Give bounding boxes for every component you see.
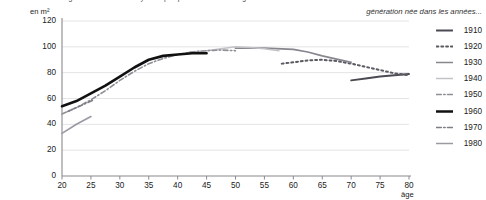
- legend-swatch-1920-icon: [436, 42, 453, 51]
- legend-label-1910: 1910: [459, 26, 482, 35]
- x-tick-label-35: 35: [138, 181, 160, 190]
- legend-item-1910[interactable]: 1910: [436, 25, 482, 35]
- legend-swatch-1940-icon: [436, 74, 453, 83]
- legend-label-1940: 1940: [459, 74, 482, 83]
- x-tick-label-55: 55: [253, 181, 275, 190]
- legend-item-1970[interactable]: 1970: [436, 122, 482, 132]
- x-tick-label-25: 25: [80, 181, 102, 190]
- legend-item-1960[interactable]: 1960: [436, 106, 482, 116]
- chart-root: logement : surface moyenne par personne …: [0, 0, 486, 200]
- legend-swatch-1910-icon: [436, 26, 453, 35]
- legend-item-1950[interactable]: 1950: [436, 90, 482, 100]
- gridlines: [62, 21, 409, 150]
- x-tick-label-65: 65: [311, 181, 333, 190]
- x-tick-label-70: 70: [340, 181, 362, 190]
- axis-spines: [62, 18, 411, 176]
- data-series-group: [62, 47, 409, 134]
- y-tick-label-20: 20: [34, 145, 56, 154]
- x-tick-label-60: 60: [282, 181, 304, 190]
- legend-label-1930: 1930: [459, 58, 482, 67]
- x-tick-label-75: 75: [369, 181, 391, 190]
- y-tick-label-80: 80: [34, 68, 56, 77]
- x-tick-label-45: 45: [196, 181, 218, 190]
- legend-label-1960: 1960: [459, 107, 482, 116]
- legend-item-1940[interactable]: 1940: [436, 74, 482, 84]
- y-tick-label-100: 100: [34, 42, 56, 51]
- legend-label-1970: 1970: [459, 123, 482, 132]
- legend-label-1950: 1950: [459, 90, 482, 99]
- legend-item-1930[interactable]: 1930: [436, 57, 482, 67]
- legend-label-1920: 1920: [459, 42, 482, 51]
- legend-label-1980: 1980: [459, 139, 482, 148]
- plot-area: [0, 0, 486, 200]
- y-tick-label-120: 120: [34, 16, 56, 25]
- x-tick-label-30: 30: [109, 181, 131, 190]
- series-line-1980: [62, 117, 91, 134]
- legend-swatch-1950-icon: [436, 90, 453, 99]
- y-tick-label-0: 0: [34, 171, 56, 180]
- legend-item-1920[interactable]: 1920: [436, 41, 482, 51]
- legend-swatch-1960-icon: [436, 107, 453, 116]
- legend-swatch-1970-icon: [436, 123, 453, 132]
- y-tick-label-40: 40: [34, 119, 56, 128]
- legend-item-1980[interactable]: 1980: [436, 138, 482, 148]
- x-tick-label-80: 80: [398, 181, 420, 190]
- y-tick-label-60: 60: [34, 94, 56, 103]
- legend-title: génération née dans les années...: [366, 7, 482, 16]
- x-tick-label-40: 40: [167, 181, 189, 190]
- x-axis-label: âge: [401, 190, 414, 199]
- x-tick-label-20: 20: [51, 181, 73, 190]
- x-tick-label-50: 50: [225, 181, 247, 190]
- legend-swatch-1930-icon: [436, 58, 453, 67]
- legend-swatch-1980-icon: [436, 139, 453, 148]
